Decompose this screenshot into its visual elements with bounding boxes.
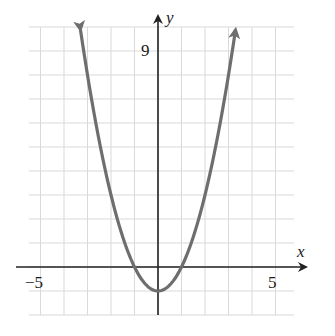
y-axis-label: y — [164, 8, 174, 27]
x-axis-label: x — [296, 242, 305, 261]
x-tick-label-5: 5 — [268, 273, 277, 292]
grid-lines — [29, 27, 295, 315]
y-tick-label-9: 9 — [141, 41, 150, 60]
parabola-chart: −5 5 9 x y — [0, 0, 335, 336]
x-tick-label-neg5: −5 — [25, 273, 43, 292]
